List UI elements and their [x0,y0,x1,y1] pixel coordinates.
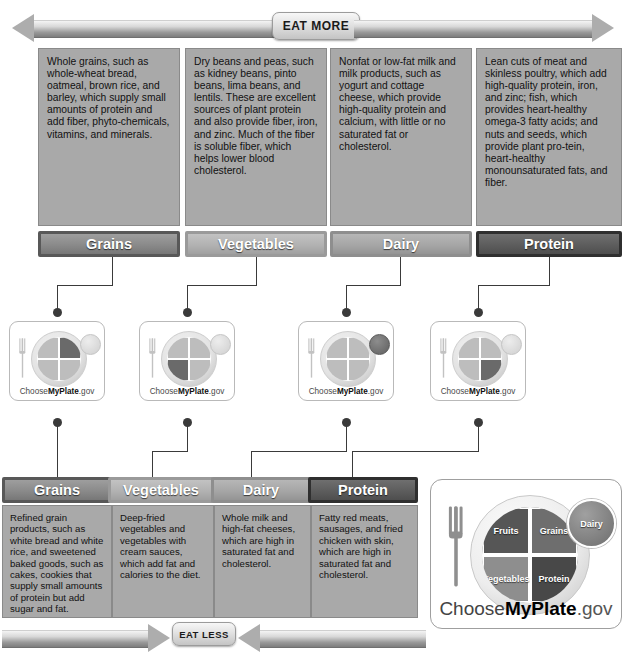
caption-pre: Choose [20,387,48,396]
plate-graphic [31,331,87,387]
quadrant-vegetables [167,359,189,381]
quadrant-fruits [167,337,189,359]
connector-vegetables-upper-seg3 [187,285,188,310]
fork-icon [308,338,315,378]
connector-grains-upper-seg3 [57,285,58,310]
segment-fruits: Fruits [482,507,530,555]
plate-quadrants [37,337,81,381]
connector-grains-upper-seg2 [57,285,113,286]
dairy-circle-icon [80,334,101,355]
fork-icon [19,338,26,378]
diagram-canvas: EAT MORE Whole grains, such as whole-whe… [0,0,626,661]
connector-protein-upper-seg2 [478,285,550,286]
myplate-icon-protein[interactable]: ChooseMyPlate.gov [430,321,526,401]
caption-bold: MyPlate [178,387,209,396]
eat-less-label-protein[interactable]: Protein [308,477,418,503]
eat-less-label-grains[interactable]: Grains [2,477,112,503]
connector-grains-upper-seg1 [112,257,113,286]
quadrant-protein [59,359,81,381]
myplate-icon-grains[interactable]: ChooseMyPlate.gov [9,321,105,401]
eat-more-description-protein: Lean cuts of meat and skinless poultry, … [476,48,622,226]
caption-pre: Choose [309,387,337,396]
dairy-circle-icon [210,334,231,355]
eat-less-description-vegetables: Deep-fried vegetables and vegetables wit… [112,505,214,618]
eat-more-label: EAT MORE [272,12,360,40]
segment-vegetables: Vegetables [482,555,530,603]
fork-icon [149,338,156,378]
plate-graphic [452,331,508,387]
quadrant-grains [59,337,81,359]
plate-quadrants [167,337,211,381]
eat-less-bar-right [260,630,426,648]
quadrant-protein [189,359,211,381]
eat-more-bar-left [34,20,276,38]
myplate-icon-caption: ChooseMyPlate.gov [140,387,234,396]
connector-protein-lower-seg1 [478,423,479,452]
connector-vegetables-lower-seg2 [152,451,188,452]
connector-dot-dairy-upper [342,308,351,317]
myplate-icon-dairy[interactable]: ChooseMyPlate.gov [298,321,394,401]
eat-more-left-arrowhead [12,14,34,42]
eat-less-label-dairy[interactable]: Dairy [211,477,311,503]
connector-vegetables-lower-seg1 [187,423,188,452]
caption-post: .gov [500,387,515,396]
eat-less-left-arrowhead [148,624,170,652]
caption-bold: MyPlate [48,387,79,396]
myplate-icon-vegetables[interactable]: ChooseMyPlate.gov [139,321,235,401]
quadrant-fruits [458,337,480,359]
eat-more-right-arrowhead [592,14,614,42]
eat-more-banner: EAT MORE [0,8,626,48]
connector-vegetables-lower-seg3 [152,451,153,479]
eat-less-bar-left [2,630,152,648]
quadrant-fruits [326,337,348,359]
connector-dairy-upper-seg3 [346,285,347,310]
eat-more-label-protein[interactable]: Protein [476,231,622,257]
eat-less-right-arrowhead [238,624,260,652]
connector-vegetables-upper-seg2 [187,285,257,286]
myplate-icon-caption: ChooseMyPlate.gov [10,387,104,396]
quadrant-vegetables [326,359,348,381]
connector-dot-vegetables-upper [183,308,192,317]
eat-less-label: EAT LESS [172,622,236,646]
eat-more-label-dairy[interactable]: Dairy [330,231,472,257]
quadrant-protein [480,359,502,381]
eat-less-banner: EAT LESS [0,618,430,658]
eat-less-description-protein: Fatty red meats, sausages, and fried chi… [311,505,418,618]
connector-protein-upper-seg3 [478,285,479,310]
logo-caption-post: .gov [577,598,613,619]
dairy-circle-icon [501,334,522,355]
connector-vegetables-upper-seg1 [256,257,257,286]
eat-more-label-grains[interactable]: Grains [38,231,180,257]
eat-less-description-dairy: Whole milk and high-fat cheeses, which a… [214,505,311,618]
plate-quadrants [326,337,370,381]
caption-bold: MyPlate [469,387,500,396]
myplate-icon-caption: ChooseMyPlate.gov [299,387,393,396]
caption-pre: Choose [441,387,469,396]
fork-icon [448,504,464,589]
eat-more-label-vegetables[interactable]: Vegetables [185,231,327,257]
eat-less-description-grains: Refined grain products, such as white br… [2,505,112,618]
connector-dairy-lower-seg3 [251,451,252,479]
myplate-icon-caption: ChooseMyPlate.gov [431,387,525,396]
caption-post: .gov [79,387,94,396]
plate-quadrants [458,337,502,381]
connector-dot-grains-upper [53,308,62,317]
myplate-logo[interactable]: Fruits Grains Vegetables Protein Dairy C… [430,479,622,629]
eat-more-description-dairy: Nonfat or low-fat milk and milk products… [330,48,472,226]
myplate-logo-caption: ChooseMyPlate.gov [431,598,621,620]
caption-bold: MyPlate [337,387,368,396]
eat-less-label-vegetables[interactable]: Vegetables [108,477,214,503]
caption-pre: Choose [150,387,178,396]
connector-dot-protein-upper [474,308,483,317]
plate-segments: Fruits Grains Vegetables Protein [482,507,578,603]
connector-dairy-lower-seg2 [251,451,347,452]
quadrant-grains [348,337,370,359]
plate-graphic [161,331,217,387]
eat-more-description-vegetables: Dry beans and peas, such as kidney beans… [185,48,327,226]
eat-more-bar-right [354,20,594,38]
fork-icon [440,338,447,378]
plate-graphic [320,331,376,387]
segment-dairy: Dairy [567,499,616,548]
caption-post: .gov [209,387,224,396]
quadrant-grains [189,337,211,359]
